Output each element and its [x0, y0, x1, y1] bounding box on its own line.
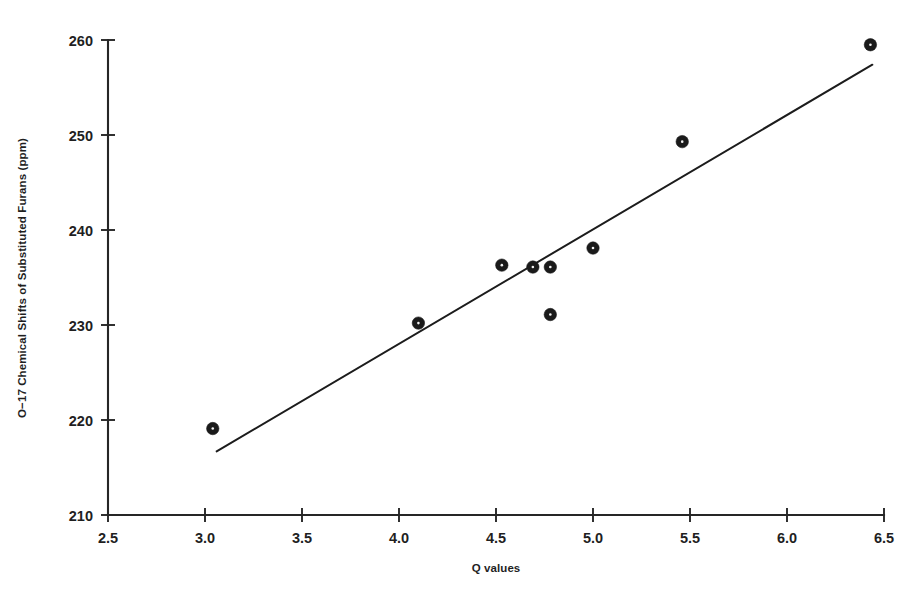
x-axis-title: Q values: [472, 562, 521, 574]
y-axis-title: O−17 Chemical Shifts of Substituted Fura…: [16, 138, 28, 418]
data-point-highlight: [681, 140, 684, 143]
x-tick-label: 6.0: [777, 530, 797, 546]
y-tick-label: 260: [69, 33, 93, 49]
x-tick-label: 2.5: [98, 530, 118, 546]
x-tick-label: 5.0: [583, 530, 603, 546]
data-point-highlight: [211, 427, 214, 430]
data-point-highlight: [549, 313, 552, 316]
data-point-highlight: [549, 266, 552, 269]
scatter-plot-figure: 210220230240250260 2.53.03.54.04.55.05.5…: [0, 0, 921, 596]
y-tick-label: 220: [69, 413, 93, 429]
x-tick-label: 3.5: [292, 530, 312, 546]
x-tick-label: 4.0: [389, 530, 409, 546]
data-point-highlight: [869, 43, 872, 46]
x-tick-label: 5.5: [680, 530, 700, 546]
y-tick-label: 240: [69, 223, 93, 239]
x-tick-label: 6.5: [874, 530, 894, 546]
data-point-highlight: [417, 322, 420, 325]
figure-background: [0, 0, 921, 596]
data-point-highlight: [501, 264, 504, 267]
data-point-highlight: [532, 266, 535, 269]
x-tick-label: 4.5: [486, 530, 506, 546]
y-tick-label: 210: [69, 508, 93, 524]
data-point-highlight: [592, 247, 595, 250]
x-tick-label: 3.0: [195, 530, 215, 546]
y-tick-label: 250: [69, 128, 93, 144]
y-tick-label: 230: [69, 318, 93, 334]
